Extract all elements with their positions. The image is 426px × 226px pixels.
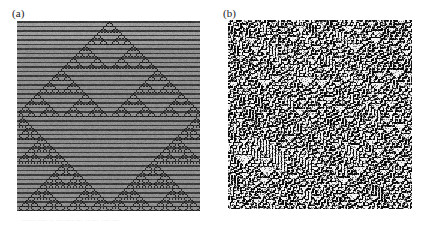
panel-b-image xyxy=(228,20,412,209)
panel-a-image xyxy=(17,21,200,211)
panel-label-b: (b) xyxy=(223,8,236,19)
caption-strip: ...... .... .. ... .... ... .. ... .... … xyxy=(0,215,426,226)
caption-text: ...... .... .. ... .... ... .. ... .... … xyxy=(22,215,412,223)
figure-root: (a) (b) ...... .... .. ... .... ... .. .… xyxy=(0,0,426,226)
panel-label-a: (a) xyxy=(12,8,25,19)
